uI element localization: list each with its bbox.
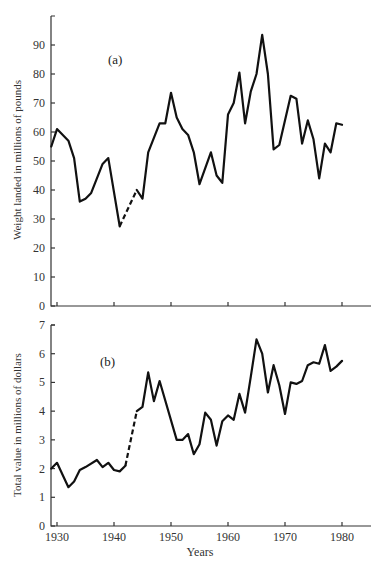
chart-figure: 0102030405060708090 (a) Weight landed in… [0, 0, 382, 562]
panel-a-label: (a) [108, 52, 122, 67]
y-tick-label: 40 [33, 183, 45, 197]
panel-a-series-line [51, 35, 342, 227]
y-tick-label: 50 [33, 154, 45, 168]
panel-a-weight-landed: 0102030405060708090 (a) Weight landed in… [11, 16, 371, 313]
y-tick-label: 4 [39, 404, 45, 418]
panel-b-y-ticks: 01234567 [39, 318, 55, 533]
y-tick-label: 1 [39, 490, 45, 504]
y-tick-label: 7 [39, 318, 45, 332]
y-tick-label: 3 [39, 433, 45, 447]
x-tick-label: 1950 [159, 530, 183, 544]
panel-a-y-ticks: 0102030405060708090 [33, 38, 55, 313]
panel-b-total-value: 01234567 193019401950196019701980 (b) To… [11, 318, 371, 559]
x-tick-label: 1930 [45, 530, 69, 544]
x-tick-label: 1970 [273, 530, 297, 544]
panel-b-axes [51, 325, 371, 526]
y-tick-label: 70 [33, 96, 45, 110]
y-tick-label: 5 [39, 375, 45, 389]
y-tick-label: 60 [33, 125, 45, 139]
panel-b-series-dashed-gap [125, 411, 136, 466]
y-tick-label: 2 [39, 462, 45, 476]
y-tick-label: 6 [39, 347, 45, 361]
panel-b-x-ticks: 193019401950196019701980 [45, 522, 354, 544]
y-tick-label: 0 [39, 299, 45, 313]
panel-b-label: (b) [100, 354, 115, 369]
x-tick-label: 1980 [330, 530, 354, 544]
panel-b-series-line [51, 339, 342, 487]
y-tick-label: 20 [33, 241, 45, 255]
y-tick-label: 30 [33, 212, 45, 226]
x-axis-title: Years [187, 545, 214, 559]
x-tick-label: 1940 [102, 530, 126, 544]
y-tick-label: 90 [33, 38, 45, 52]
panel-b-y-axis-title: Total value in millions of dollars [11, 353, 23, 497]
panel-a-y-axis-title: Weight landed in millions of pounds [11, 80, 23, 240]
y-tick-label: 80 [33, 67, 45, 81]
panel-a-series-dashed-gap [120, 190, 137, 226]
x-tick-label: 1960 [216, 530, 240, 544]
y-tick-label: 10 [33, 270, 45, 284]
